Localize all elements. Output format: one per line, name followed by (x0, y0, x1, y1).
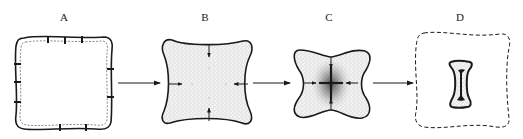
stage-label-a: A (60, 11, 68, 23)
stage-b-shape (162, 40, 252, 124)
stage-d-shape (415, 32, 509, 127)
stage-label-b: B (201, 11, 208, 23)
stage-label-d: D (456, 11, 464, 23)
diagram-canvas: A B C D (0, 0, 523, 139)
stage-c-shape (294, 50, 370, 118)
stage-a-shape (14, 36, 114, 131)
stage-label-c: C (325, 11, 332, 23)
bone-remnant (450, 61, 472, 108)
